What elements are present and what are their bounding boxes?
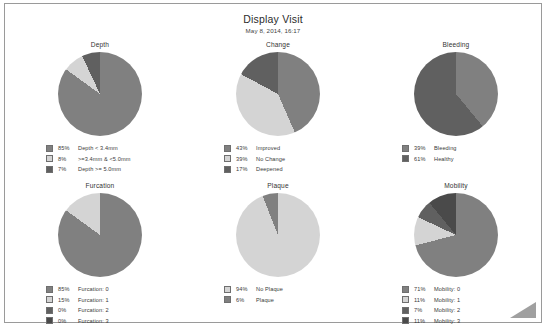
chart-title-bleeding: Bleeding [443, 40, 470, 50]
legend-item: 8%>=3.4mm & <5.0mm [46, 154, 154, 164]
legend-label: Improved [256, 145, 280, 151]
legend-label: Furcation: 1 [78, 297, 109, 303]
report-date: May 8, 2014, 16:17 [5, 26, 541, 36]
legend-swatch-icon [46, 145, 53, 152]
legend-swatch-icon [46, 317, 53, 324]
legend-item: 11%Mobility: 1 [402, 295, 510, 305]
legend-label: >=3.4mm & <5.0mm [78, 156, 130, 162]
legend-percent: 7% [58, 166, 78, 172]
legend-label: Plaque [256, 297, 274, 303]
legend-swatch-icon [402, 286, 409, 293]
pie-chart-bleeding [414, 52, 498, 136]
legend-swatch-icon [46, 166, 53, 173]
legend-percent: 61% [414, 156, 434, 162]
legend-item: 17%Deepened [224, 164, 332, 174]
pie-chart-furcation [58, 193, 142, 277]
legend-swatch-icon [224, 145, 231, 152]
page-corner-fold [510, 302, 536, 318]
legend-swatch-icon [224, 166, 231, 173]
legend-item: 11%Mobility: 3 [402, 316, 510, 326]
legend-swatch-icon [46, 155, 53, 162]
chart-cell-change: Change43%Improved39%No Change17%Deepened [189, 40, 367, 181]
legend-swatch-icon [46, 307, 53, 314]
pie-wrap-plaque [236, 193, 320, 277]
legend-label: No Plaque [256, 286, 283, 292]
legend-plaque: 94%No Plaque6%Plaque [224, 284, 332, 305]
legend-label: Furcation: 3 [78, 318, 109, 324]
legend-label: Depth < 3.4mm [78, 145, 118, 151]
legend-furcation: 85%Furcation: 015%Furcation: 10%Furcatio… [46, 284, 154, 326]
legend-label: Deepened [256, 166, 283, 172]
legend-label: Mobility: 3 [434, 318, 460, 324]
chart-title-change: Change [266, 40, 290, 50]
legend-percent: 15% [58, 297, 78, 303]
legend-percent: 11% [414, 318, 434, 324]
legend-swatch-icon [402, 155, 409, 162]
report-page: Display Visit May 8, 2014, 16:17 Depth85… [0, 0, 547, 328]
legend-percent: 6% [236, 297, 256, 303]
legend-percent: 71% [414, 286, 434, 292]
charts-grid: Depth85%Depth < 3.4mm8%>=3.4mm & <5.0mm7… [11, 40, 545, 326]
legend-percent: 17% [236, 166, 256, 172]
pie-chart-change [236, 52, 320, 136]
pie-wrap-change [236, 52, 320, 136]
legend-percent: 0% [58, 318, 78, 324]
legend-label: Mobility: 1 [434, 297, 460, 303]
legend-percent: 39% [236, 156, 256, 162]
legend-item: 85%Furcation: 0 [46, 284, 154, 294]
legend-percent: 8% [58, 156, 78, 162]
legend-item: 6%Plaque [224, 295, 332, 305]
legend-percent: 39% [414, 145, 434, 151]
page-frame: Display Visit May 8, 2014, 16:17 Depth85… [4, 3, 542, 323]
legend-item: 43%Improved [224, 143, 332, 153]
legend-swatch-icon [402, 317, 409, 324]
legend-label: Mobility: 2 [434, 307, 460, 313]
legend-item: 39%Bleeding [402, 143, 510, 153]
legend-label: Depth >= 5.0mm [78, 166, 121, 172]
legend-item: 0%Furcation: 2 [46, 305, 154, 315]
pie-wrap-furcation [58, 193, 142, 277]
legend-swatch-icon [224, 155, 231, 162]
chart-cell-depth: Depth85%Depth < 3.4mm8%>=3.4mm & <5.0mm7… [11, 40, 189, 181]
legend-label: Furcation: 2 [78, 307, 109, 313]
legend-item: 61%Healthy [402, 154, 510, 164]
legend-mobility: 71%Mobility: 011%Mobility: 17%Mobility: … [402, 284, 510, 326]
legend-swatch-icon [402, 307, 409, 314]
legend-swatch-icon [46, 286, 53, 293]
legend-label: Furcation: 0 [78, 286, 109, 292]
page-title: Display Visit [5, 13, 541, 26]
legend-item: 0%Furcation: 3 [46, 316, 154, 326]
legend-item: 94%No Plaque [224, 284, 332, 294]
legend-label: Healthy [434, 156, 454, 162]
pie-chart-depth [58, 52, 142, 136]
chart-title-plaque: Plaque [267, 181, 288, 191]
legend-item: 15%Furcation: 1 [46, 295, 154, 305]
pie-wrap-bleeding [414, 52, 498, 136]
legend-change: 43%Improved39%No Change17%Deepened [224, 143, 332, 175]
legend-percent: 94% [236, 286, 256, 292]
chart-title-furcation: Furcation [86, 181, 115, 191]
legend-item: 39%No Change [224, 154, 332, 164]
legend-percent: 85% [58, 145, 78, 151]
legend-swatch-icon [46, 296, 53, 303]
chart-title-mobility: Mobility [444, 181, 468, 191]
legend-percent: 11% [414, 297, 434, 303]
legend-percent: 0% [58, 307, 78, 313]
legend-swatch-icon [402, 296, 409, 303]
pie-wrap-depth [58, 52, 142, 136]
legend-percent: 7% [414, 307, 434, 313]
legend-percent: 85% [58, 286, 78, 292]
legend-bleeding: 39%Bleeding61%Healthy [402, 143, 510, 164]
legend-label: Mobility: 0 [434, 286, 460, 292]
legend-label: No Change [256, 156, 285, 162]
chart-cell-plaque: Plaque94%No Plaque6%Plaque [189, 181, 367, 326]
pie-chart-plaque [236, 193, 320, 277]
legend-swatch-icon [224, 296, 231, 303]
chart-title-depth: Depth [91, 40, 109, 50]
legend-swatch-icon [224, 286, 231, 293]
legend-label: Bleeding [434, 145, 457, 151]
legend-item: 85%Depth < 3.4mm [46, 143, 154, 153]
report-header: Display Visit May 8, 2014, 16:17 [5, 13, 541, 36]
legend-item: 7%Depth >= 5.0mm [46, 164, 154, 174]
legend-depth: 85%Depth < 3.4mm8%>=3.4mm & <5.0mm7%Dept… [46, 143, 154, 175]
